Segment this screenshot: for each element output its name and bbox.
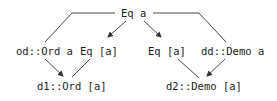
class-hierarchy-diagram: Eq a od::Ord a Eq [a] Eq [a] dd::Demo a …: [0, 0, 277, 101]
node-d2-demo-list: d2::Demo [a]: [166, 80, 242, 92]
node-eq-list-left: Eq [a]: [80, 45, 118, 57]
node-dd-demo-a: dd::Demo a: [201, 45, 264, 57]
edge-eq-list-left-d1-ord: [72, 59, 90, 77]
node-eq-list-right: Eq [a]: [148, 45, 186, 57]
node-d1-ord-list: d1::Ord [a]: [37, 80, 107, 92]
edge-eq-list-right-d2-demo: [178, 59, 199, 78]
edge-dd-demo-d2-demo: [207, 59, 225, 76]
edge-od-ord-d1-ord: [45, 59, 63, 76]
edge-root-dd-demo: [153, 13, 226, 42]
edge-root-eq-list-left: [108, 21, 126, 37]
node-eq-a: Eq a: [121, 7, 146, 19]
edge-root-eq-list-right: [144, 21, 161, 37]
edge-root-od-ord: [45, 13, 115, 42]
node-od-ord-a: od::Ord a: [16, 45, 73, 57]
